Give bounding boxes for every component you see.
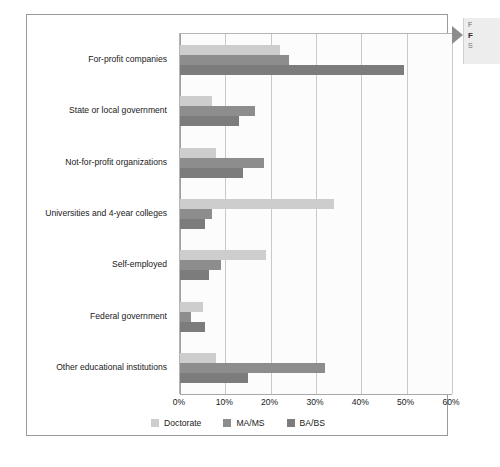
category-label: Self-employed — [27, 259, 167, 269]
legend-label: Doctorate — [164, 418, 201, 428]
chart-figure-frame: For-profit companiesState or local gover… — [26, 14, 448, 436]
bar-ba-bs — [180, 168, 243, 178]
bar-group — [180, 353, 452, 383]
callout-panel: F F S — [463, 18, 500, 64]
bar-ma-ms — [180, 312, 191, 322]
plot-area — [179, 33, 452, 394]
bar-ba-bs — [180, 373, 248, 383]
bar-ba-bs — [180, 270, 209, 280]
x-tick-label: 20% — [261, 397, 278, 407]
chart-legend: DoctorateMA/MSBA/BS — [27, 415, 449, 431]
callout-line-3: S — [468, 42, 473, 49]
bar-ba-bs — [180, 219, 205, 229]
x-axis-baseline — [180, 394, 452, 395]
x-tick-label: 50% — [397, 397, 414, 407]
bar-group — [180, 45, 452, 75]
x-tick-label: 30% — [306, 397, 323, 407]
bar-ma-ms — [180, 55, 289, 65]
bar-doctorate — [180, 96, 212, 106]
legend-label: MA/MS — [236, 418, 264, 428]
legend-swatch-icon — [287, 419, 295, 427]
legend-swatch-icon — [223, 419, 231, 427]
bar-ma-ms — [180, 209, 212, 219]
callout-line-1: F — [468, 21, 472, 28]
bar-group — [180, 250, 452, 280]
callout-arrow-icon — [452, 26, 463, 44]
bar-doctorate — [180, 353, 216, 363]
x-tick-label: 40% — [352, 397, 369, 407]
bar-doctorate — [180, 148, 216, 158]
bar-ba-bs — [180, 116, 239, 126]
bar-group — [180, 96, 452, 126]
bar-doctorate — [180, 199, 334, 209]
legend-item: Doctorate — [151, 418, 201, 428]
bar-ba-bs — [180, 65, 404, 75]
category-axis-labels: For-profit companiesState or local gover… — [27, 33, 173, 393]
bar-ma-ms — [180, 363, 325, 373]
bar-group — [180, 199, 452, 229]
category-label: Not-for-profit organizations — [27, 157, 167, 167]
bar-group — [180, 302, 452, 332]
bar-ma-ms — [180, 158, 264, 168]
legend-label: BA/BS — [300, 418, 325, 428]
x-tick-label: 0% — [173, 397, 185, 407]
category-label: Universities and 4-year colleges — [27, 208, 167, 218]
category-label: Other educational institutions — [27, 362, 167, 372]
gridline-60 — [452, 34, 453, 394]
side-callout: F F S — [452, 18, 500, 64]
x-axis-tick-labels: 0%10%20%30%40%50%60% — [179, 397, 451, 411]
legend-swatch-icon — [151, 419, 159, 427]
callout-line-2: F — [468, 31, 473, 40]
bar-ma-ms — [180, 106, 255, 116]
legend-item: BA/BS — [287, 418, 325, 428]
x-tick-label: 60% — [442, 397, 459, 407]
legend-item: MA/MS — [223, 418, 264, 428]
bar-doctorate — [180, 250, 266, 260]
bar-group — [180, 148, 452, 178]
bar-ma-ms — [180, 260, 221, 270]
figure-root: For-profit companiesState or local gover… — [0, 0, 500, 467]
x-tick-label: 10% — [216, 397, 233, 407]
category-label: Federal government — [27, 311, 167, 321]
bar-doctorate — [180, 45, 280, 55]
bar-ba-bs — [180, 322, 205, 332]
bar-doctorate — [180, 302, 203, 312]
category-label: For-profit companies — [27, 54, 167, 64]
category-label: State or local government — [27, 105, 167, 115]
